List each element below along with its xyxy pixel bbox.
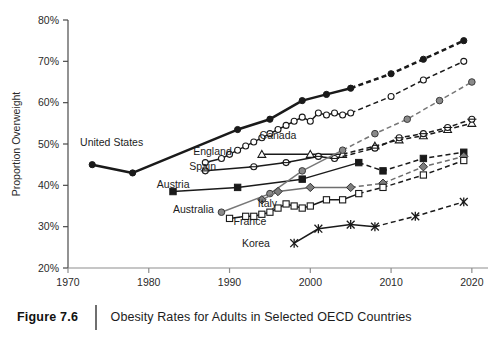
chart-plot-area: 20%30%40%50%60%70%80% 197019801990200020…	[0, 0, 496, 292]
data-point-marker	[315, 110, 321, 116]
data-point-marker	[420, 155, 426, 161]
data-point-marker	[380, 168, 386, 174]
series-spain	[201, 116, 477, 174]
data-point-marker	[372, 130, 379, 137]
data-point-marker	[460, 197, 468, 206]
y-axis-tick-label: 60%	[38, 96, 59, 108]
series-label-group: United StatesEnglandCanadaSpainAustriaAu…	[80, 129, 296, 248]
data-point-marker	[235, 126, 241, 132]
series-line-projected	[343, 123, 472, 154]
data-point-marker	[419, 131, 428, 137]
figure-caption: Figure 7.6 Obesity Rates for Adults in S…	[0, 297, 496, 337]
x-axis-tick-label: 2010	[379, 276, 403, 288]
data-point-marker	[130, 170, 136, 176]
caption-divider	[95, 305, 97, 330]
data-point-marker	[249, 164, 258, 170]
data-point-marker	[461, 58, 467, 64]
data-point-marker	[461, 157, 467, 163]
data-point-marker	[340, 112, 346, 118]
data-point-marker	[348, 85, 354, 91]
data-point-marker	[306, 183, 314, 191]
series-united-states	[89, 38, 467, 176]
series-england	[202, 58, 466, 165]
y-axis-title: Proportion Overweight	[10, 92, 22, 197]
series-line-projected	[375, 202, 464, 227]
series-label-korea: Korea	[242, 237, 270, 249]
chart-series-group	[89, 38, 476, 248]
figure-number: Figure 7.6	[17, 310, 93, 324]
y-axis-tick-label: 40%	[38, 179, 59, 191]
data-point-marker	[411, 212, 419, 221]
y-axis-tick-label: 30%	[38, 220, 59, 232]
series-australia	[218, 79, 475, 216]
series-line-projected	[359, 161, 464, 194]
series-label-austria: Austria	[157, 178, 190, 190]
data-point-marker	[235, 147, 241, 153]
data-point-marker	[299, 168, 306, 175]
data-point-marker	[467, 116, 476, 122]
series-line-projected	[335, 119, 472, 158]
series-label-canada: Canada	[260, 129, 297, 141]
data-point-marker	[332, 110, 338, 116]
x-axis-tick-labels: 197019801990200020102020	[56, 268, 483, 288]
y-axis-tick-label: 80%	[38, 14, 59, 26]
data-point-marker	[251, 139, 257, 145]
series-korea	[290, 197, 467, 247]
data-point-marker	[419, 163, 427, 171]
data-point-marker	[420, 77, 426, 83]
series-italy	[258, 152, 468, 204]
y-axis-tick-label: 70%	[38, 55, 59, 67]
data-point-marker	[420, 56, 426, 62]
data-point-marker	[420, 172, 426, 178]
data-point-marker	[436, 97, 443, 104]
series-line-projected	[351, 156, 464, 187]
data-point-marker	[243, 143, 249, 149]
data-point-marker	[299, 114, 305, 120]
data-point-marker	[346, 183, 354, 191]
data-point-marker	[290, 239, 298, 248]
figure-title: Obesity Rates for Adults in Selected OEC…	[111, 310, 412, 324]
data-point-marker	[461, 38, 467, 44]
y-axis-tick-label: 20%	[38, 262, 59, 274]
data-point-marker	[356, 191, 362, 197]
x-axis-tick-label: 1980	[137, 276, 161, 288]
data-point-marker	[339, 147, 346, 154]
series-label-england: England	[193, 145, 232, 157]
data-point-marker	[469, 79, 476, 86]
data-point-marker	[323, 197, 329, 203]
data-point-marker	[388, 71, 394, 77]
y-axis-tick-label: 50%	[38, 138, 59, 150]
x-axis-tick-label: 1970	[56, 276, 80, 288]
series-line-projected	[351, 41, 464, 89]
data-point-marker	[340, 197, 346, 203]
obesity-rates-line-chart: 20%30%40%50%60%70%80% 197019801990200020…	[0, 0, 496, 292]
data-point-marker	[89, 162, 95, 168]
data-point-marker	[291, 203, 297, 209]
series-line-projected	[359, 152, 464, 171]
data-point-marker	[299, 205, 305, 211]
x-axis-tick-label: 2020	[460, 276, 484, 288]
x-axis-tick-label: 2000	[299, 276, 323, 288]
x-axis-tick-label: 1990	[218, 276, 242, 288]
data-point-marker	[348, 110, 354, 116]
data-point-marker	[234, 184, 240, 190]
series-label-spain: Spain	[189, 160, 216, 172]
series-label-italy: Italy	[258, 197, 278, 209]
data-point-marker	[267, 116, 273, 122]
data-point-marker	[291, 118, 297, 124]
data-point-marker	[307, 203, 313, 209]
data-point-marker	[388, 93, 394, 99]
data-point-marker	[218, 209, 225, 216]
data-point-marker	[226, 215, 232, 221]
data-point-marker	[404, 116, 411, 123]
data-point-marker	[307, 118, 313, 124]
data-point-marker	[356, 159, 362, 165]
figure-container: 20%30%40%50%60%70%80% 197019801990200020…	[0, 0, 496, 349]
data-point-marker	[299, 176, 305, 182]
series-line-projected	[351, 61, 464, 113]
data-point-marker	[380, 184, 386, 190]
series-label-france: France	[234, 215, 267, 227]
series-label-australia: Australia	[173, 203, 214, 215]
data-point-marker	[299, 98, 305, 104]
data-point-marker	[323, 112, 329, 118]
